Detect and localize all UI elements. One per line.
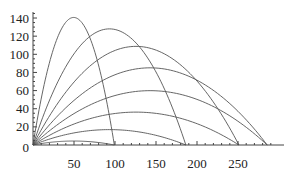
y-tick-label: 80 xyxy=(16,65,29,80)
x-tick-label: 250 xyxy=(228,156,248,171)
trajectory-curves xyxy=(33,17,267,145)
y-tick-label: 40 xyxy=(16,101,29,116)
y-tick-label: 140 xyxy=(10,11,30,26)
trajectory-chart: 50100150200250 020406080100120140 xyxy=(0,0,284,175)
y-tick-label: 60 xyxy=(16,83,29,98)
y-tick-label: 0 xyxy=(23,140,30,155)
x-tick-label: 100 xyxy=(105,156,125,171)
y-tick-label: 20 xyxy=(16,119,29,134)
trajectory-curve-60deg xyxy=(33,46,239,145)
y-tick-label: 100 xyxy=(10,47,30,62)
trajectory-curve-50deg xyxy=(33,68,267,145)
x-tick-label: 200 xyxy=(187,156,207,171)
trajectory-curve-30deg xyxy=(33,112,239,145)
trajectory-curve-80deg xyxy=(33,17,114,145)
x-tick-label: 150 xyxy=(146,156,166,171)
trajectory-curve-40deg xyxy=(33,91,267,145)
y-tick-label: 120 xyxy=(10,29,30,44)
trajectory-curve-70deg xyxy=(33,29,186,145)
x-tick-label: 50 xyxy=(68,156,81,171)
